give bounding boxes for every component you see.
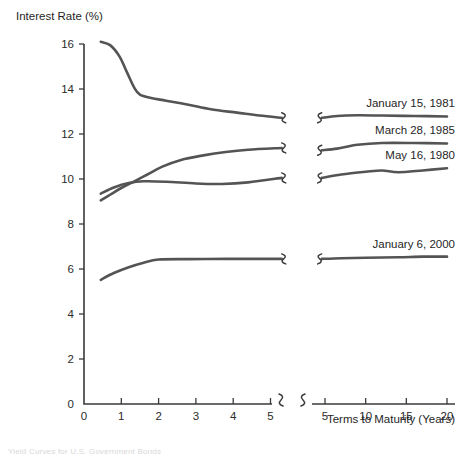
x-axis-title: Terms to Maturity (Years) xyxy=(327,413,455,425)
series-label-3: January 6, 2000 xyxy=(373,238,455,250)
y-tick-label: 8 xyxy=(68,218,74,230)
series-line-left-1 xyxy=(101,148,282,200)
series-line-right-3 xyxy=(322,257,447,259)
y-tick-label: 12 xyxy=(61,128,74,140)
series-line-left-3 xyxy=(101,259,282,280)
left-panel-axis xyxy=(84,44,272,404)
y-tick-label: 2 xyxy=(68,353,74,365)
series-label-0: January 15, 1981 xyxy=(366,97,455,109)
series-label-2: May 16, 1980 xyxy=(385,149,455,161)
y-tick-label: 10 xyxy=(61,173,74,185)
x-axis-ticks-left: 012345 xyxy=(81,398,274,422)
y-tick-label: 0 xyxy=(68,398,74,410)
axis-break-left-icon xyxy=(279,394,283,406)
x-tick-label-left: 3 xyxy=(193,410,199,422)
series-label-1: March 28, 1985 xyxy=(375,124,455,136)
x-tick-label-left: 0 xyxy=(81,410,87,422)
y-axis-ticks: 0246810121416 xyxy=(61,38,84,410)
y-tick-label: 4 xyxy=(68,308,75,320)
y-tick-label: 14 xyxy=(61,83,74,95)
axis-break-right-icon xyxy=(301,394,305,406)
x-tick-label-left: 5 xyxy=(267,410,273,422)
x-tick-label-left: 4 xyxy=(230,410,237,422)
footer-caption: Yield Curves for U.S. Government Bonds xyxy=(8,447,161,456)
x-tick-label-left: 1 xyxy=(118,410,124,422)
series-line-left-0 xyxy=(101,42,282,118)
series-line-right-0 xyxy=(322,115,447,117)
x-axis-break-marks xyxy=(279,394,305,406)
x-tick-label-left: 2 xyxy=(155,410,161,422)
y-tick-label: 6 xyxy=(68,263,74,275)
y-tick-label: 16 xyxy=(61,38,74,50)
series-labels-group: January 15, 1981March 28, 1985May 16, 19… xyxy=(366,97,455,249)
series-line-right-2 xyxy=(322,168,447,178)
y-axis-title: Interest Rate (%) xyxy=(16,10,103,22)
